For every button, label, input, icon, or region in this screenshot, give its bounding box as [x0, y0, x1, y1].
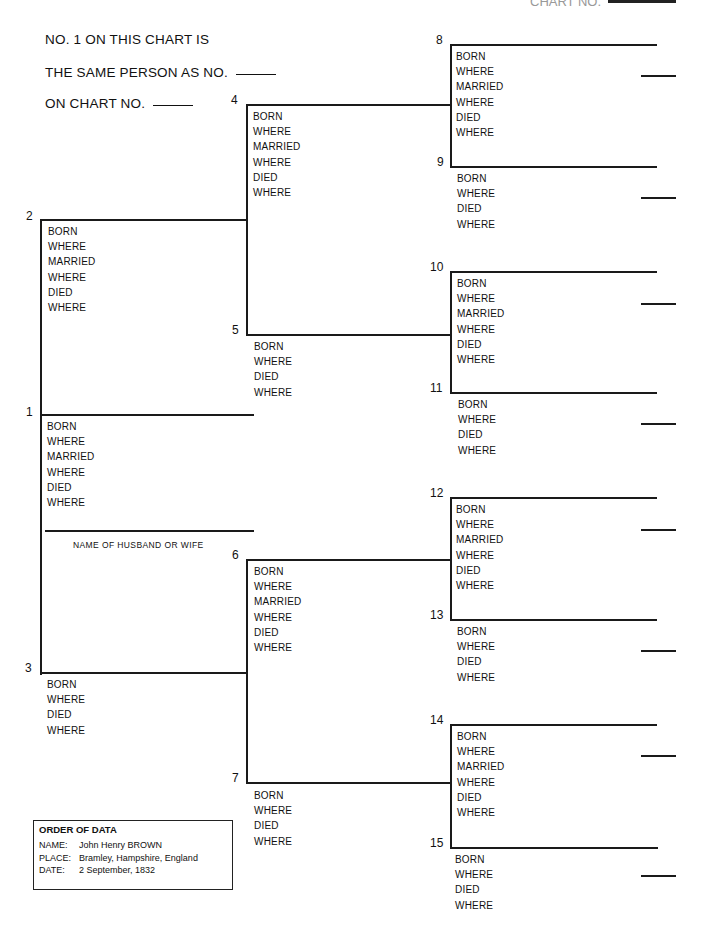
field-born[interactable]: BORN	[457, 171, 495, 186]
field-where[interactable]: WHERE	[47, 434, 95, 449]
field-born[interactable]: BORN	[458, 397, 496, 412]
field-married[interactable]: MARRIED	[456, 532, 504, 547]
field-married[interactable]: MARRIED	[457, 759, 505, 774]
field-born[interactable]: BORN	[47, 419, 95, 434]
field-where[interactable]: WHERE	[457, 322, 505, 337]
spouse-line[interactable]	[45, 530, 254, 532]
field-died[interactable]: DIED	[254, 818, 292, 833]
field-where[interactable]: WHERE	[456, 64, 504, 79]
field-where[interactable]: WHERE	[254, 803, 292, 818]
field-where[interactable]: WHERE	[457, 291, 505, 306]
continuation-dash-14[interactable]	[641, 755, 676, 757]
continuation-dash-15[interactable]	[641, 875, 676, 877]
field-where[interactable]: WHERE	[455, 898, 493, 913]
field-married[interactable]: MARRIED	[48, 254, 96, 269]
field-where[interactable]: WHERE	[254, 385, 292, 400]
field-died[interactable]: DIED	[456, 110, 504, 125]
field-where[interactable]: WHERE	[254, 579, 302, 594]
field-died[interactable]: DIED	[254, 369, 292, 384]
field-married[interactable]: MARRIED	[254, 594, 302, 609]
person-14-line	[450, 724, 657, 726]
field-died[interactable]: DIED	[47, 707, 85, 722]
field-died[interactable]: DIED	[456, 563, 504, 578]
field-died[interactable]: DIED	[458, 427, 496, 442]
person-number-4: 4	[231, 93, 238, 107]
field-married[interactable]: MARRIED	[456, 79, 504, 94]
field-where[interactable]: WHERE	[457, 670, 495, 685]
person-2-line	[40, 219, 248, 221]
continuation-dash-11[interactable]	[641, 423, 676, 425]
field-married[interactable]: MARRIED	[457, 306, 505, 321]
field-where[interactable]: WHERE	[458, 443, 496, 458]
field-born[interactable]: BORN	[47, 677, 85, 692]
field-where[interactable]: WHERE	[47, 692, 85, 707]
field-born[interactable]: BORN	[457, 729, 505, 744]
field-where[interactable]: WHERE	[457, 744, 505, 759]
field-died[interactable]: DIED	[457, 337, 505, 352]
continuation-dash-8[interactable]	[641, 75, 676, 77]
order-value: 2 September, 1832	[79, 864, 155, 877]
spouse-label: NAME OF HUSBAND OR WIFE	[73, 540, 204, 550]
chart-no-field-2[interactable]	[153, 105, 193, 106]
field-married[interactable]: MARRIED	[253, 139, 301, 154]
field-where[interactable]: WHERE	[456, 95, 504, 110]
field-where[interactable]: WHERE	[457, 186, 495, 201]
field-died[interactable]: DIED	[48, 285, 96, 300]
field-died[interactable]: DIED	[457, 790, 505, 805]
continuation-dash-9[interactable]	[641, 197, 676, 199]
field-where[interactable]: WHERE	[253, 185, 301, 200]
field-where[interactable]: WHERE	[253, 124, 301, 139]
person-number-2: 2	[26, 209, 33, 223]
field-where[interactable]: WHERE	[254, 354, 292, 369]
field-born[interactable]: BORN	[455, 852, 493, 867]
field-where[interactable]: WHERE	[254, 640, 302, 655]
field-where[interactable]: WHERE	[47, 723, 85, 738]
field-born[interactable]: BORN	[456, 49, 504, 64]
field-where[interactable]: WHERE	[456, 125, 504, 140]
field-where[interactable]: WHERE	[456, 517, 504, 532]
field-born[interactable]: BORN	[254, 788, 292, 803]
continuation-dash-10[interactable]	[641, 303, 676, 305]
field-where[interactable]: WHERE	[47, 495, 95, 510]
field-died[interactable]: DIED	[455, 882, 493, 897]
continuation-dash-13[interactable]	[641, 650, 676, 652]
field-where[interactable]: WHERE	[455, 867, 493, 882]
field-born[interactable]: BORN	[457, 276, 505, 291]
field-where[interactable]: WHERE	[254, 834, 292, 849]
field-born[interactable]: BORN	[253, 109, 301, 124]
field-where[interactable]: WHERE	[48, 239, 96, 254]
person-13-line	[450, 619, 657, 621]
field-died[interactable]: DIED	[47, 480, 95, 495]
field-where[interactable]: WHERE	[253, 155, 301, 170]
field-where[interactable]: WHERE	[47, 465, 95, 480]
field-died[interactable]: DIED	[457, 654, 495, 669]
field-where[interactable]: WHERE	[457, 639, 495, 654]
field-born[interactable]: BORN	[456, 502, 504, 517]
field-died[interactable]: DIED	[253, 170, 301, 185]
connector-8-9	[450, 44, 452, 168]
field-where[interactable]: WHERE	[48, 270, 96, 285]
field-died[interactable]: DIED	[457, 201, 495, 216]
field-where[interactable]: WHERE	[457, 217, 495, 232]
field-born[interactable]: BORN	[254, 564, 302, 579]
chart-no-field[interactable]	[608, 0, 676, 3]
field-where[interactable]: WHERE	[456, 578, 504, 593]
field-where[interactable]: WHERE	[254, 610, 302, 625]
field-born[interactable]: BORN	[48, 224, 96, 239]
field-born[interactable]: BORN	[457, 624, 495, 639]
field-where[interactable]: WHERE	[458, 412, 496, 427]
same-person-no-field[interactable]	[236, 74, 276, 75]
field-died[interactable]: DIED	[254, 625, 302, 640]
field-born[interactable]: BORN	[254, 339, 292, 354]
person-15-fields: BORN WHERE DIED WHERE	[455, 852, 493, 913]
field-where[interactable]: WHERE	[457, 805, 505, 820]
field-married[interactable]: MARRIED	[47, 449, 95, 464]
field-where[interactable]: WHERE	[48, 300, 96, 315]
continuation-dash-12[interactable]	[641, 529, 676, 531]
field-where[interactable]: WHERE	[457, 352, 505, 367]
field-where[interactable]: WHERE	[457, 775, 505, 790]
field-where[interactable]: WHERE	[456, 548, 504, 563]
header-line-3-text: ON CHART NO.	[45, 96, 145, 111]
person-number-15: 15	[430, 836, 443, 850]
person-5-line	[246, 334, 452, 336]
